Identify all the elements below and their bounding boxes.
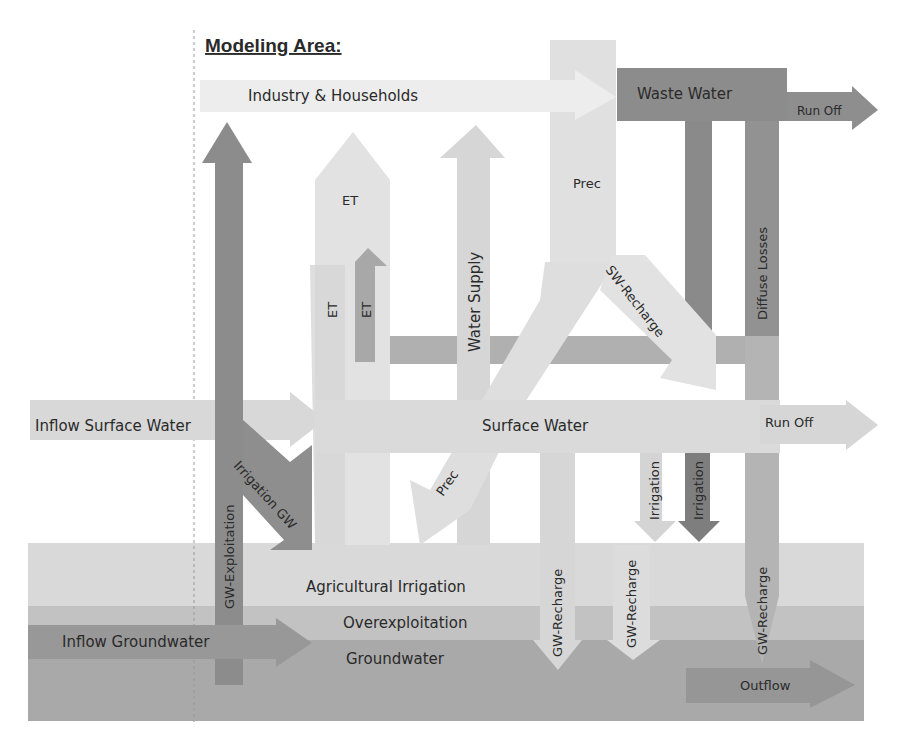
- gw-exploitation-label: GW-Exploitation: [222, 505, 237, 609]
- water-supply-label: Water Supply: [466, 252, 484, 352]
- irrigation-light-label: Irrigation: [647, 461, 662, 520]
- gw-recharge-1-label: GW-Recharge: [550, 569, 565, 657]
- agricultural-irrigation-label: Agricultural Irrigation: [306, 578, 466, 596]
- inflow-surface-water-label: Inflow Surface Water: [35, 417, 192, 435]
- run-off-top-label: Run Off: [797, 104, 842, 118]
- modeling-area-title: Modeling Area:: [205, 35, 342, 56]
- irrigation-dark-label: Irrigation: [691, 461, 706, 520]
- gw-recharge-3-label: GW-Recharge: [755, 567, 770, 655]
- prec-top-label: Prec: [573, 176, 601, 191]
- gw-recharge-2-label: GW-Recharge: [624, 560, 639, 648]
- industry-households-label: Industry & Households: [248, 87, 418, 105]
- diffuse-losses-label: Diffuse Losses: [755, 227, 770, 320]
- groundwater-label: Groundwater: [346, 650, 445, 668]
- run-off-mid-label: Run Off: [765, 415, 814, 430]
- irrigation-dark-arrow: [678, 521, 720, 542]
- waste-water-label: Waste Water: [637, 85, 733, 103]
- water-balance-diagram: Modeling Area: Industry & Households Was…: [0, 0, 906, 741]
- agricultural-irrigation-layer: [28, 543, 864, 609]
- et-right-label: ET: [359, 302, 374, 318]
- et-top-label: ET: [342, 193, 358, 208]
- inflow-groundwater-label: Inflow Groundwater: [62, 633, 210, 651]
- diffuse-recharge-column: [745, 336, 779, 596]
- irrigation-light-arrow: [634, 521, 676, 542]
- overexploitation-label: Overexploitation: [343, 614, 467, 632]
- surface-water-label: Surface Water: [482, 417, 589, 435]
- outflow-label: Outflow: [740, 678, 791, 693]
- et-left-label: ET: [325, 302, 340, 318]
